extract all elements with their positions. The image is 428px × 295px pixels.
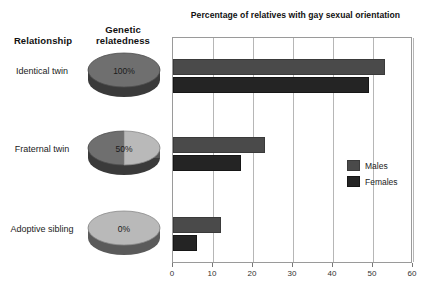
x-tick-mark-20 [252, 263, 253, 267]
x-tick-mark-30 [292, 263, 293, 267]
x-tick-label-50: 50 [368, 269, 377, 278]
x-tick-mark-50 [372, 263, 373, 267]
row-label-adoptive-sibling: Adoptive sibling [6, 224, 78, 235]
x-tick-label-30: 30 [288, 269, 297, 278]
x-tick-label-10: 10 [208, 269, 217, 278]
x-tick-mark-0 [172, 263, 173, 267]
legend-label-males: Males [365, 161, 388, 171]
bar-identical-twin-females [173, 77, 369, 93]
x-tick-label-40: 40 [328, 269, 337, 278]
pie-svg-identical-twin [84, 48, 164, 104]
pie-chart-adoptive-sibling: 0% [84, 206, 164, 262]
chart-legend: Males Females [347, 160, 419, 192]
pie-chart-fraternal-twin: 50% [84, 126, 164, 182]
x-tick-mark-10 [212, 263, 213, 267]
bar-adoptive-sibling-females [173, 235, 197, 251]
x-tick-mark-60 [412, 263, 413, 267]
bar-adoptive-sibling-males [173, 217, 221, 233]
column-header-genetic-relatedness: Genetic relatedness [80, 24, 166, 46]
bar-fraternal-twin-females [173, 155, 241, 171]
bar-fraternal-twin-males [173, 137, 265, 153]
pie-svg-adoptive-sibling [84, 206, 164, 262]
bar-chart-plot-area [172, 37, 412, 263]
x-tick-label-0: 0 [170, 269, 174, 278]
gridline-60 [413, 38, 414, 262]
legend-item-males: Males [347, 160, 419, 171]
column-header-relationship: Relationship [6, 35, 80, 46]
x-tick-mark-40 [332, 263, 333, 267]
legend-swatch-females-icon [347, 176, 360, 187]
row-label-identical-twin: Identical twin [6, 66, 78, 77]
pie-chart-identical-twin: 100% [84, 48, 164, 104]
x-tick-label-20: 20 [248, 269, 257, 278]
legend-swatch-males-icon [347, 160, 360, 171]
legend-item-females: Females [347, 176, 419, 187]
chart-title: Percentage of relatives with gay sexual … [168, 10, 423, 20]
x-axis: 0102030405060 [172, 263, 412, 289]
x-tick-label-60: 60 [408, 269, 417, 278]
row-label-fraternal-twin: Fraternal twin [6, 144, 78, 155]
genetic-relatedness-figure: Relationship Genetic relatedness Identic… [0, 0, 428, 295]
pie-svg-fraternal-twin [84, 126, 164, 182]
bar-identical-twin-males [173, 59, 385, 75]
legend-label-females: Females [365, 177, 398, 187]
